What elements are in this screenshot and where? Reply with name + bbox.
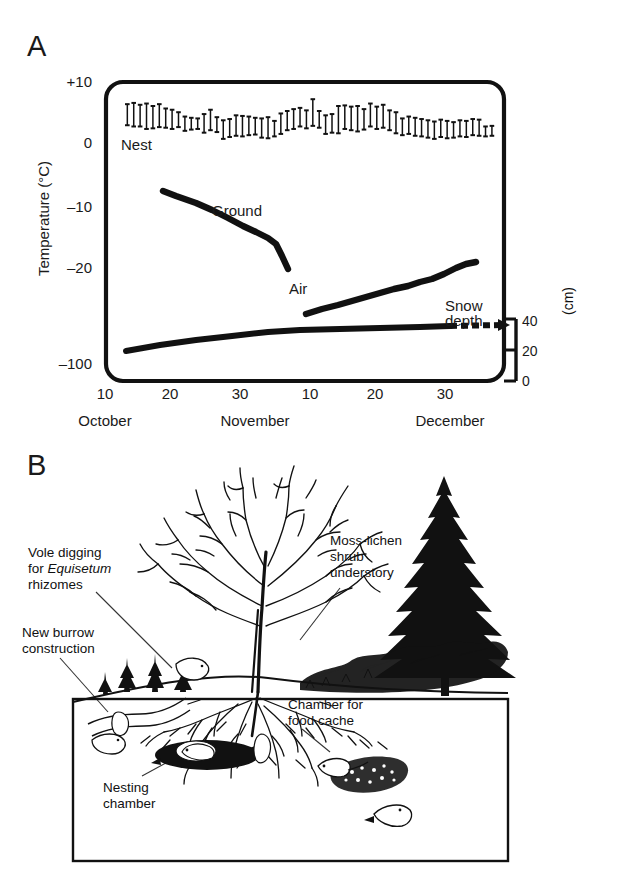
y-tick-label-3: –20 [30,259,92,276]
label-new-burrow-line1: New burrow [22,625,94,640]
snow-axis-unit: (cm) [560,256,576,346]
snow-axis-tick-20: 20 [522,343,538,359]
series-label-snow-depth: Snow depth [445,298,501,328]
y-tick-label-4: –100 [30,355,92,372]
x-tick-label-3: 10 [290,385,330,402]
moss-lichen-understory [300,642,508,693]
vole-digging-figure [92,734,125,754]
label-vole-digging: Vole digging for Equisetum rhizomes [28,545,148,593]
x-tick-label-0: 10 [85,385,125,402]
snow-axis-tick-40: 40 [522,313,538,329]
nesting-chamber [151,740,262,770]
x-month-label-november: November [205,412,305,429]
y-tick-label-1: 0 [30,134,92,151]
x-tick-label-1: 20 [150,385,190,402]
label-moss-line1: Moss-lichen [330,533,402,548]
seedlings [98,654,192,694]
label-chamber-line2: food cache [288,713,354,728]
label-moss-line3: understory [330,565,394,580]
label-new-burrow: New burrow construction [22,625,142,657]
label-nesting-line2: chamber [103,796,156,811]
series-label-air: Air [289,280,307,297]
label-chamber-line1: Chamber for [288,697,363,712]
label-new-burrow-line2: construction [22,641,95,656]
x-month-label-december: December [400,412,500,429]
label-nesting-line1: Nesting [103,780,149,795]
y-tick-label-2: –10 [30,198,92,215]
series-label-ground: Ground [212,202,262,219]
panel-b-svg [0,440,618,893]
panel-a-letter: A [27,30,46,63]
label-nesting-chamber: Nesting chamber [103,780,213,812]
y-tick-label-0: +10 [30,73,92,90]
x-tick-label-4: 20 [355,385,395,402]
snow-axis-tick-0: 0 [522,373,530,389]
label-vole-digging-line2-pre: for [28,561,48,576]
panel-a-chart: Temperature (°C) +10 0 –10 –20 –100 10 2… [0,60,618,440]
food-cache-chamber [318,757,408,793]
vole-figure [364,805,412,826]
label-equisetum: Equisetum [48,561,112,576]
label-food-cache: Chamber for food cache [288,697,398,729]
nest-errorbar-group [125,99,494,139]
label-moss-lichen: Moss-lichen shrub understory [330,533,440,581]
panel-b-illustration: Vole digging for Equisetum rhizomes New … [0,440,618,893]
x-month-label-october: October [55,412,155,429]
figure-root: A Temperature (°C) +10 0 –10 –20 –100 10… [0,0,618,893]
series-label-nest: Nest [121,136,152,153]
x-tick-label-2: 30 [220,385,260,402]
x-tick-label-5: 30 [425,385,465,402]
y-axis-title: Temperature (°C) [35,124,52,314]
label-moss-line2: shrub [330,549,364,564]
label-vole-digging-line3: rhizomes [28,577,83,592]
label-vole-digging-line1: Vole digging [28,545,102,560]
snow-depth-curve [126,326,450,351]
